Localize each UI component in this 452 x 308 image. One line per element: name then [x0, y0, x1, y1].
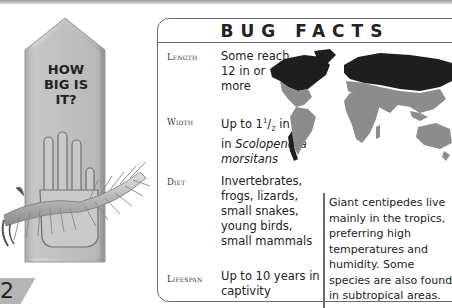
size-comparison-graphic: HOW BIG IS IT?	[0, 0, 160, 308]
width-prefix: Up to 1	[221, 117, 263, 131]
value-line: Invertebrates,	[221, 174, 341, 189]
fact-label-width: Width	[167, 117, 193, 127]
page-number: 2	[0, 277, 14, 305]
world-distribution-map-icon	[270, 47, 452, 167]
ruler-title-line: BIG IS	[38, 77, 94, 92]
width-line2-prefix: in	[221, 137, 235, 151]
habitat-divider	[323, 193, 325, 308]
ruler-title-line: IT?	[38, 92, 94, 107]
facts-title: BUG FACTS	[158, 19, 452, 43]
fact-label-lifespan: Lifespan	[167, 274, 202, 284]
ruler-title: HOW BIG IS IT?	[38, 62, 94, 107]
ruler-pillar-icon	[0, 0, 160, 308]
habitat-description: Giant centipedes live mainly in the trop…	[329, 195, 452, 304]
ruler-title-line: HOW	[38, 62, 94, 77]
fact-label-length: Length	[167, 52, 198, 62]
fact-label-diet: Diet	[167, 177, 185, 187]
